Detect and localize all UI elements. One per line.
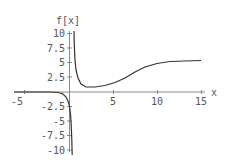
y-tick-label: -5 (53, 116, 65, 127)
x-tick-label: 5 (110, 96, 116, 107)
x-axis-label: x (211, 87, 217, 98)
x-tick-label: 15 (195, 96, 207, 107)
plot: f[x] x -5 5 10 15 10 7.5 5 2.5 -2.5 -5 -… (0, 0, 232, 167)
y-axis-label: f[x] (56, 15, 80, 26)
curve-right-branch (74, 31, 201, 87)
y-tick-label: 10 (53, 28, 65, 39)
y-tick-label: -10 (47, 145, 65, 156)
y-tick-label: 5 (59, 57, 65, 68)
x-tick-label: 10 (151, 96, 163, 107)
x-tick-label: -5 (11, 96, 23, 107)
y-tick-label: -2.5 (41, 101, 65, 112)
y-tick-label: 7.5 (47, 43, 65, 54)
y-tick-label: 2.5 (47, 72, 65, 83)
y-tick-label: -7.5 (41, 130, 65, 141)
